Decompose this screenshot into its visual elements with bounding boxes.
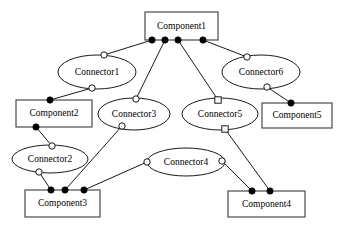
- edge-line: [136, 40, 165, 99]
- filled-port-icon[interactable]: [33, 124, 39, 130]
- connector-label: Connector6: [239, 67, 284, 77]
- connector-label: Connector5: [198, 109, 243, 119]
- edge-line: [225, 129, 270, 191]
- edge-line: [104, 40, 152, 55]
- component-connector-diagram: Connector1Connector2Connector3Connector4…: [0, 0, 346, 227]
- open-port-icon[interactable]: [49, 143, 55, 149]
- open-port-icon[interactable]: [89, 85, 95, 91]
- connector-node-connector6[interactable]: Connector6: [222, 55, 300, 89]
- open-port-icon[interactable]: [219, 158, 225, 164]
- edge-line: [222, 161, 252, 191]
- component-node-component3[interactable]: Component3: [25, 190, 100, 217]
- edge-line: [84, 162, 147, 190]
- filled-port-icon[interactable]: [249, 188, 255, 194]
- edge-line: [178, 40, 218, 100]
- filled-port-icon[interactable]: [62, 187, 68, 193]
- component-label: Component1: [157, 21, 206, 31]
- filled-port-icon[interactable]: [175, 37, 181, 43]
- connector-label: Connector2: [28, 154, 73, 164]
- component-label: Component4: [242, 199, 291, 209]
- filled-port-icon[interactable]: [162, 37, 168, 43]
- filled-port-icon[interactable]: [48, 187, 54, 193]
- open-port-icon[interactable]: [119, 123, 125, 129]
- components-layer: Component1Component2Component3Component4…: [16, 12, 332, 217]
- open-port-icon[interactable]: [101, 52, 107, 58]
- connector-label: Connector1: [75, 67, 120, 77]
- connector-label: Connector4: [164, 157, 209, 167]
- connector-node-connector3[interactable]: Connector3: [98, 98, 170, 130]
- open-port-icon[interactable]: [144, 159, 150, 165]
- open-port-icon[interactable]: [222, 126, 228, 132]
- component-node-component5[interactable]: Component5: [262, 103, 332, 128]
- edge-line: [36, 127, 52, 146]
- connector-node-connector1[interactable]: Connector1: [58, 55, 136, 89]
- filled-port-icon[interactable]: [47, 97, 53, 103]
- component-node-component1[interactable]: Component1: [145, 12, 218, 40]
- filled-port-icon[interactable]: [200, 37, 206, 43]
- edge-line: [267, 87, 291, 103]
- edge-line: [203, 40, 247, 57]
- connector-node-connector2[interactable]: Connector2: [12, 145, 88, 173]
- open-port-icon[interactable]: [215, 97, 221, 103]
- connector-node-connector4[interactable]: Connector4: [147, 148, 225, 176]
- component-node-component4[interactable]: Component4: [228, 191, 305, 217]
- filled-port-icon[interactable]: [267, 188, 273, 194]
- open-port-icon[interactable]: [264, 84, 270, 90]
- open-port-icon[interactable]: [133, 96, 139, 102]
- diagram-canvas: Connector1Connector2Connector3Connector4…: [0, 0, 346, 227]
- filled-port-icon[interactable]: [149, 37, 155, 43]
- open-port-icon[interactable]: [36, 169, 42, 175]
- edge-line: [50, 88, 92, 100]
- component-label: Component2: [29, 108, 78, 118]
- filled-port-icon[interactable]: [288, 100, 294, 106]
- component-node-component2[interactable]: Component2: [16, 100, 92, 127]
- open-port-icon[interactable]: [244, 54, 250, 60]
- filled-port-icon[interactable]: [81, 187, 87, 193]
- component-label: Component5: [272, 110, 321, 120]
- connector-label: Connector3: [112, 109, 157, 119]
- component-label: Component3: [38, 198, 87, 208]
